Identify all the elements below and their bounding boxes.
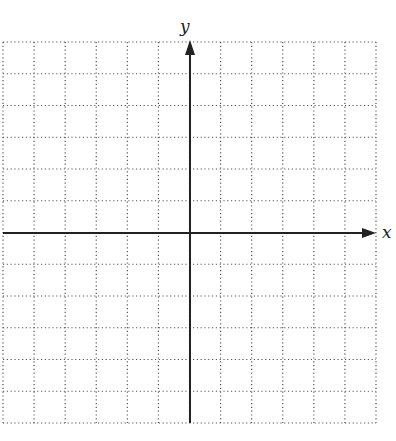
coordinate-plane: x y (0, 0, 396, 441)
y-axis-label: y (179, 16, 190, 36)
x-axis-arrow-icon (362, 228, 376, 238)
x-axis-label: x (382, 222, 392, 242)
